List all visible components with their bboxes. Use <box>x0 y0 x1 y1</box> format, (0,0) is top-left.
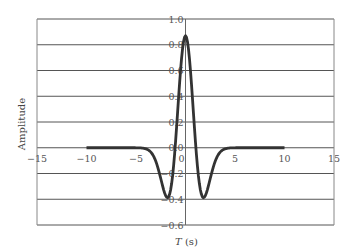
x-tick-label: −5 <box>129 153 143 164</box>
x-tick-label: 5 <box>232 153 238 164</box>
wavelet-chart: 1.00.80.60.40.20.0−0.2−0.4−0.6−15−10−551… <box>0 0 354 249</box>
x-tick-label: −10 <box>76 153 96 164</box>
y-tick-label: −0.6 <box>160 220 183 231</box>
x-tick-label: 10 <box>278 153 290 164</box>
y-tick-label: −0.4 <box>160 194 183 205</box>
x-tick-label: 15 <box>328 153 340 164</box>
y-axis-label: Amplitude <box>16 98 27 151</box>
x-tick-label: −15 <box>27 153 47 164</box>
x-axis-label: T (s) <box>175 236 198 247</box>
x-tick-label: 0 <box>178 153 184 164</box>
y-tick-label: 1.0 <box>168 14 183 25</box>
y-tick-label: 0.4 <box>168 91 183 102</box>
